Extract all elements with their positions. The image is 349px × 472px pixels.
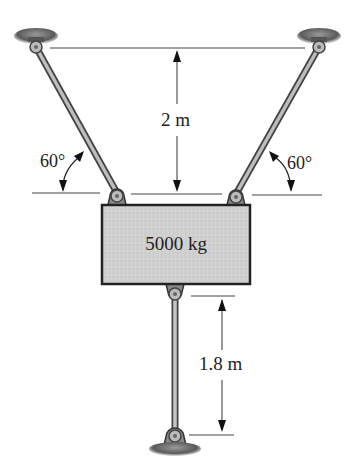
- angle-arrowhead-left-down-icon: [59, 180, 67, 192]
- angle-label-right: 60°: [287, 153, 312, 174]
- arrowhead-down-icon: [218, 420, 226, 432]
- angle-arrowhead-right-up-icon: [269, 151, 279, 162]
- dim-label-2m: 2 m: [161, 109, 190, 131]
- angle-arrowhead-right-down-icon: [287, 180, 295, 192]
- arrowhead-down-icon: [173, 180, 181, 192]
- arrowhead-up-icon: [173, 50, 181, 62]
- arrowhead-up-icon: [218, 299, 226, 311]
- mass-label: 5000 kg: [102, 233, 250, 255]
- bottom-support: [149, 442, 201, 456]
- support-base-icon: [149, 442, 201, 456]
- angle-label-left: 60°: [40, 151, 65, 172]
- dim-label-1-8m: 1.8 m: [199, 353, 242, 375]
